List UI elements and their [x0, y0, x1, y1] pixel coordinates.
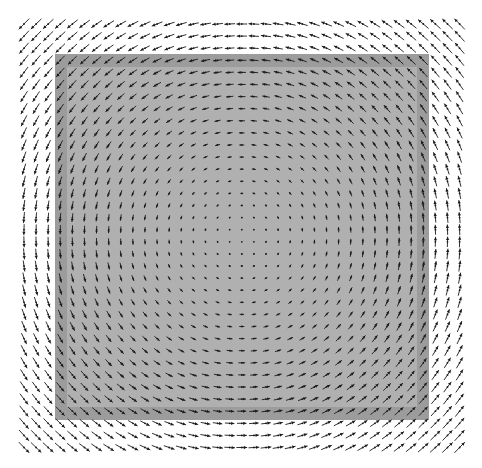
arrow-icon [217, 241, 219, 243]
arrow-icon [229, 241, 231, 243]
arrow-icon [241, 265, 243, 267]
arrow-icon [277, 253, 279, 255]
arrow-icon [241, 253, 243, 255]
arrow-icon [217, 253, 219, 255]
arrow-icon [229, 253, 231, 255]
arrow-icon [265, 241, 267, 243]
inner-area [67, 67, 417, 407]
arrow-icon [229, 217, 231, 219]
arrow-icon [205, 253, 207, 255]
quiver-plot [0, 0, 482, 468]
arrow-icon [229, 229, 231, 231]
arrow-icon [277, 217, 279, 219]
arrow-icon [253, 205, 255, 207]
arrow-icon [205, 241, 207, 243]
arrow-icon [205, 265, 207, 267]
arrow-icon [241, 229, 243, 231]
arrow-icon [205, 205, 207, 207]
arrow-icon [229, 205, 231, 207]
arrow-icon [277, 229, 279, 231]
arrow-icon [265, 217, 267, 219]
arrow-icon [265, 265, 267, 267]
arrow-icon [265, 229, 267, 231]
arrow-icon [277, 241, 279, 243]
arrow-icon [229, 265, 231, 267]
arrow-icon [217, 229, 219, 231]
arrow-icon [217, 265, 219, 267]
arrow-icon [253, 253, 255, 255]
arrow-icon [241, 205, 243, 207]
arrow-icon [241, 217, 243, 219]
arrow-icon [217, 217, 219, 219]
arrow-icon [253, 265, 255, 267]
arrow-icon [205, 229, 207, 231]
arrow-icon [277, 205, 279, 207]
arrow-icon [205, 217, 207, 219]
arrow-icon [241, 241, 243, 243]
arrow-icon [265, 205, 267, 207]
arrow-icon [253, 229, 255, 231]
arrow-icon [253, 241, 255, 243]
arrow-icon [265, 253, 267, 255]
arrow-icon [217, 205, 219, 207]
arrow-icon [253, 217, 255, 219]
arrow-icon [277, 265, 279, 267]
